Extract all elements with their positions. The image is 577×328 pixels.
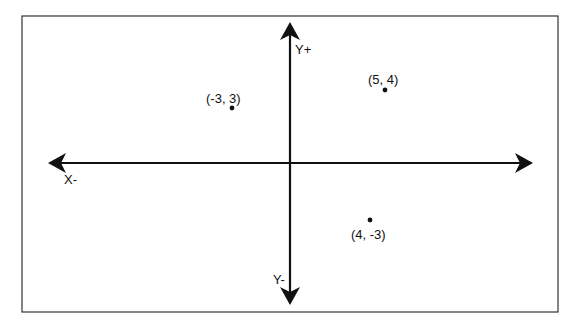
x-negative-label: X- [64, 172, 77, 187]
point-label: (-3, 3) [206, 91, 241, 106]
y-negative-label: Y- [273, 272, 285, 287]
coordinate-plane: X- Y+ Y- (-3, 3) (5, 4) (4, -3) [0, 0, 577, 328]
point-marker [383, 88, 388, 93]
point-marker [230, 106, 235, 111]
point-label: (5, 4) [368, 72, 398, 87]
point-label: (4, -3) [351, 227, 386, 242]
point-marker [368, 218, 373, 223]
y-positive-label: Y+ [295, 42, 311, 57]
